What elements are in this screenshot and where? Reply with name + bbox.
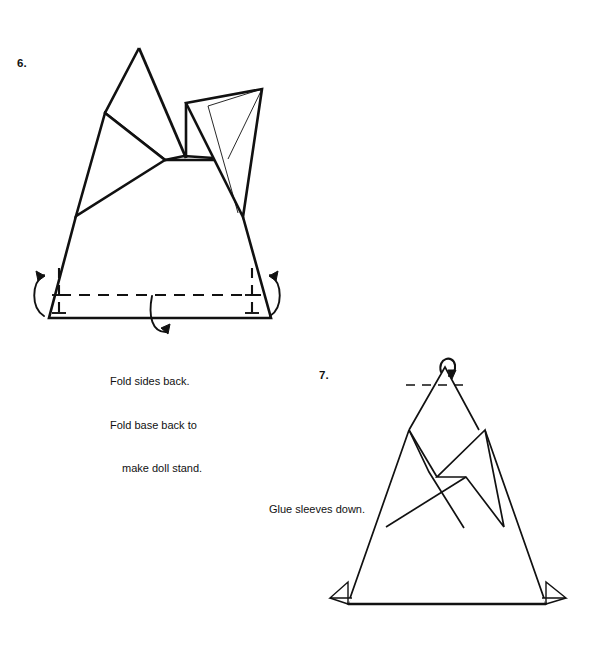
step-7-caption: Glue sleeves down. (269, 473, 365, 546)
base-right-tab (542, 582, 566, 604)
step-6-caption-line-1: Fold sides back. (110, 374, 202, 389)
instruction-page: 6. Fold sides back. Fold base back to ma… (0, 0, 597, 658)
left-sleeve-7 (409, 430, 464, 528)
step-6-number: 6. (17, 57, 27, 69)
right-side-fold-arrow-head (269, 271, 278, 281)
head-peak (105, 48, 228, 160)
left-side-fold-arrow-head (36, 271, 45, 281)
doll-body-outline (49, 216, 271, 318)
right-sleeve-crease-diagonal (208, 106, 238, 213)
right-sleeve-crease-upper (208, 89, 262, 106)
left-sleeve-upper-edge (409, 430, 437, 477)
right-sleeve-crease-fan (228, 89, 262, 159)
doll-body-outline-7 (348, 430, 546, 604)
left-sleeve (76, 113, 165, 216)
step-6-caption: Fold sides back. Fold base back to make … (110, 345, 202, 505)
right-side-fold-arrow (270, 275, 280, 316)
head-peak-7 (409, 367, 479, 430)
step-7-diagram (0, 0, 597, 658)
right-sleeve-7 (437, 430, 504, 527)
base-left-tab-edge (330, 598, 348, 604)
step-6-caption-line-2: Fold base back to (110, 418, 202, 433)
head-fold-arrow (440, 359, 455, 376)
base-fold-arrow-head (161, 324, 170, 334)
head-peak-right-edge (139, 48, 186, 158)
step-7-number: 7. (319, 369, 329, 381)
left-side-fold-arrow (34, 275, 44, 316)
step-6-diagram (0, 0, 597, 658)
step-7-caption-line-1: Glue sleeves down. (269, 502, 365, 517)
right-sleeve (186, 89, 262, 217)
base-left-tab (330, 582, 352, 604)
left-sleeve-lower-edge (386, 477, 466, 527)
step-6-caption-line-3: make doll stand. (110, 461, 202, 476)
base-fold-arrow (151, 296, 167, 332)
right-sleeve-long-edge (504, 527, 546, 604)
base-right-tab-edge (546, 598, 566, 604)
head-fold-arrow-head (448, 370, 456, 379)
left-sleeve-fill (409, 430, 485, 527)
